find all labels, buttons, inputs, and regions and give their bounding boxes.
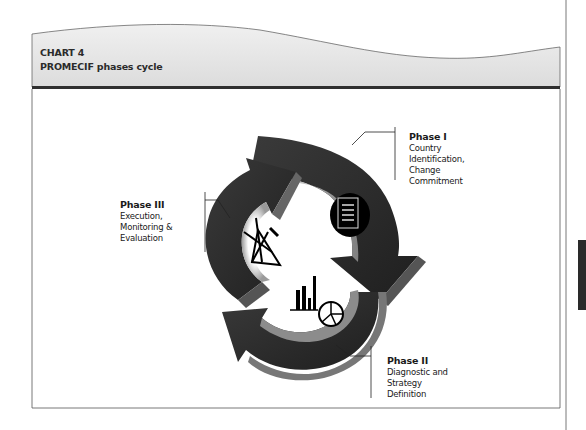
phase-1-desc-line: Identification, — [409, 154, 464, 165]
phase-2-desc-line: Strategy — [387, 378, 448, 389]
phase-2-desc-line: Definition — [387, 389, 448, 400]
chart-label: CHART 4 — [40, 47, 84, 58]
phase-3-desc-line: Monitoring & — [120, 222, 172, 233]
phase-3-desc-line: Evaluation — [120, 233, 172, 244]
phase-3-title: Phase III — [120, 199, 172, 211]
document-icon — [330, 193, 370, 237]
phase-3-desc-line: Execution, — [120, 211, 172, 222]
phase-1-desc-line: Commitment — [409, 176, 464, 187]
phase-3-label: Phase III Execution, Monitoring & Evalua… — [120, 199, 172, 244]
phase-1-desc-line: Country — [409, 143, 464, 154]
chart-title: PROMECIF phases cycle — [40, 61, 163, 72]
phase-2-desc-line: Diagnostic and — [387, 367, 448, 378]
phase-1-title: Phase I — [409, 131, 464, 143]
header-band — [32, 24, 560, 87]
phase-2-title: Phase II — [387, 355, 448, 367]
phase-2-label: Phase II Diagnostic and Strategy Definit… — [387, 355, 448, 400]
phase-1-label: Phase I Country Identification, Change C… — [409, 131, 464, 187]
phase-1-desc-line: Change — [409, 165, 464, 176]
